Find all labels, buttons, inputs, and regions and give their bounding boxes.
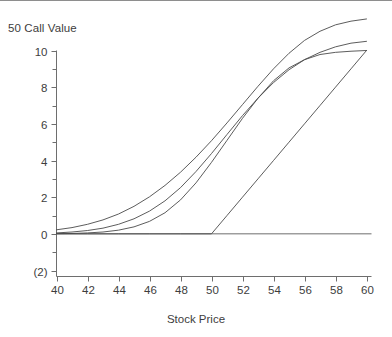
x-tick-label: 52	[237, 284, 250, 296]
x-tick-label: 44	[113, 284, 126, 296]
series-longest-maturity-call	[57, 19, 367, 230]
chart-canvas: (2)02468104042444648505254565860	[0, 0, 392, 337]
x-tick-label: 48	[175, 284, 188, 296]
y-tick-label: 0	[41, 229, 47, 241]
y-tick-label: 10	[35, 46, 48, 58]
x-tick-label: 46	[144, 284, 157, 296]
x-tick-label: 50	[206, 284, 219, 296]
y-tick-label: (2)	[33, 266, 47, 278]
series-short-maturity-call	[57, 51, 367, 234]
x-tick-label: 60	[361, 284, 374, 296]
y-tick-label: 4	[41, 156, 48, 168]
x-tick-label: 54	[268, 284, 281, 296]
x-tick-label: 42	[82, 284, 95, 296]
y-tick-label: 8	[41, 82, 47, 94]
x-tick-label: 40	[51, 284, 64, 296]
x-tick-label: 58	[330, 284, 343, 296]
series-medium-maturity-call	[57, 41, 367, 233]
series-intrinsic-value	[57, 51, 367, 234]
y-tick-label: 2	[41, 192, 47, 204]
x-axis-label: Stock Price	[0, 313, 392, 325]
y-tick-label: 6	[41, 119, 47, 131]
chart-figure: 50 Call Value (2)02468104042444648505254…	[0, 0, 392, 337]
x-tick-label: 56	[299, 284, 312, 296]
